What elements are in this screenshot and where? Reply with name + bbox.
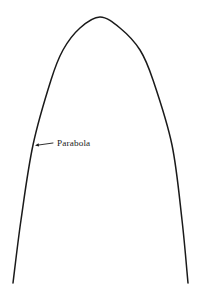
annotation-leader-line (39, 143, 53, 145)
parabola-diagram-canvas (0, 0, 205, 297)
parabola-curve (13, 17, 188, 283)
parabola-annotation-label: Parabola (57, 139, 90, 148)
annotation-arrow-head-icon (35, 143, 39, 146)
parabola-figure: Parabola (0, 0, 205, 297)
